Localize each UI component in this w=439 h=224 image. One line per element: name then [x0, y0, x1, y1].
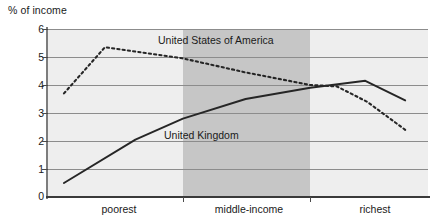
line-united-kingdom: [64, 81, 405, 183]
line-united-states: [64, 47, 405, 130]
series-lines: [0, 0, 439, 224]
chart-container: % of income 6 5 4 3 2 1 0 poorest middle…: [0, 0, 439, 224]
